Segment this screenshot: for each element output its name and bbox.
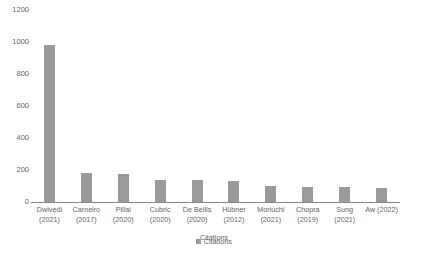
y-axis-tick-label: 400 [3, 134, 29, 142]
bar[interactable] [44, 45, 55, 202]
citations-bar-chart: 020040060080010001200 Dwivedi(2021)Carne… [0, 0, 428, 255]
x-axis-label-line: Aw (2022) [360, 205, 404, 215]
bar-slot [105, 10, 142, 202]
bar[interactable] [228, 181, 239, 202]
bar[interactable] [376, 188, 387, 202]
x-axis-category-labels: Dwivedi(2021)Carneiro(2017)Pillai(2020)C… [31, 205, 400, 233]
bar[interactable] [339, 187, 350, 202]
bar-slot [142, 10, 179, 202]
bar-slot [289, 10, 326, 202]
x-axis-line [31, 202, 400, 203]
y-axis-tick-labels: 020040060080010001200 [0, 0, 29, 212]
bar[interactable] [118, 174, 129, 202]
bar[interactable] [81, 173, 92, 202]
y-axis-tick-label: 0 [3, 198, 29, 206]
y-axis-tick-label: 200 [3, 166, 29, 174]
x-axis-label-line: (2021) [323, 215, 367, 225]
bar[interactable] [192, 180, 203, 202]
x-axis-category-label: Aw (2022) [360, 205, 404, 215]
bar[interactable] [265, 186, 276, 202]
y-axis-tick-label: 1000 [3, 38, 29, 46]
y-axis-tick-label: 800 [3, 70, 29, 78]
bar-slot [216, 10, 253, 202]
bar-slot [326, 10, 363, 202]
bar[interactable] [302, 187, 313, 202]
chart-legend: Citations [0, 237, 428, 246]
bar-slot [363, 10, 400, 202]
bar-slot [179, 10, 216, 202]
bar-slot [252, 10, 289, 202]
y-axis-tick-label: 1200 [3, 6, 29, 14]
bar[interactable] [155, 180, 166, 202]
bar-slot [68, 10, 105, 202]
legend-square-marker-icon [196, 239, 201, 244]
plot-area [31, 10, 400, 202]
y-axis-tick-label: 600 [3, 102, 29, 110]
legend-label-citations: Citations [204, 237, 232, 246]
bar-slot [31, 10, 68, 202]
